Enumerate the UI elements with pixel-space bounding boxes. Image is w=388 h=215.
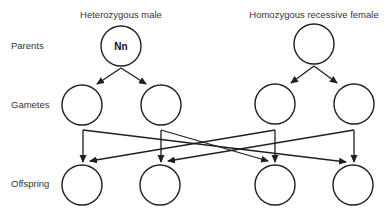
arrow-male-to-g1 <box>97 68 121 84</box>
offspring-node-o1 <box>62 165 102 205</box>
offspring-circle <box>255 165 295 205</box>
gamete-circle <box>62 85 102 125</box>
parent-circle-female <box>294 24 334 64</box>
header-homozygous-recessive-female: Homozygous recessive female <box>249 9 378 20</box>
gamete-offspring-arrows <box>83 130 354 162</box>
arrow-male-to-g2 <box>121 68 146 84</box>
row-label-offspring: Offspring <box>11 178 49 189</box>
gamete-circle <box>141 85 181 125</box>
parent-node-male: Nn <box>101 26 141 66</box>
parent-genotype-male: Nn <box>114 41 127 52</box>
gamete-node-g3 <box>255 84 295 124</box>
arrow-female-to-g3 <box>291 66 314 83</box>
offspring-circle <box>62 165 102 205</box>
gamete-node-g2 <box>141 85 181 125</box>
offspring-node-o4 <box>333 165 373 205</box>
punnett-cross-diagram: Heterozygous male Homozygous recessive f… <box>0 0 388 215</box>
gamete-node-g1 <box>62 85 102 125</box>
offspring-node-o2 <box>140 165 180 205</box>
gamete-circle <box>334 84 374 124</box>
gamete-node-g4 <box>334 84 374 124</box>
offspring-node-o3 <box>255 165 295 205</box>
row-label-gametes: Gametes <box>11 99 50 110</box>
arrow-g4-to-o2 <box>168 130 354 161</box>
header-heterozygous-male: Heterozygous male <box>80 9 162 20</box>
parent-gamete-arrows <box>97 66 337 84</box>
gamete-circle <box>255 84 295 124</box>
offspring-circle <box>140 165 180 205</box>
arrow-female-to-g4 <box>314 66 337 83</box>
parent-node-female <box>294 24 334 64</box>
offspring-circle <box>333 165 373 205</box>
row-label-parents: Parents <box>11 40 44 51</box>
arrow-g2-to-o3 <box>161 130 268 161</box>
